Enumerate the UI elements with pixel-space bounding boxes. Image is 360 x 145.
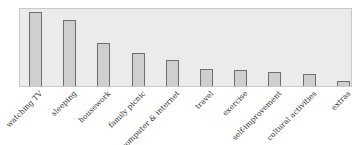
bar <box>63 20 76 86</box>
x-tick-label: exercise <box>221 89 250 118</box>
bar <box>234 70 247 86</box>
bar <box>97 43 110 86</box>
x-tick-label: computer & internet <box>119 89 181 145</box>
bar <box>268 72 281 86</box>
bar <box>200 69 213 86</box>
plot-area <box>19 8 352 87</box>
bar <box>29 12 42 86</box>
x-tick-label: housework <box>77 89 113 125</box>
x-tick-label: extras <box>329 89 352 112</box>
bar <box>337 81 350 86</box>
bar <box>166 60 179 86</box>
x-tick-label: sleeping <box>50 89 79 118</box>
bar <box>132 53 145 86</box>
x-tick-label: watching TV <box>4 89 44 129</box>
bar <box>303 74 316 86</box>
x-tick-label: travel <box>193 89 215 111</box>
